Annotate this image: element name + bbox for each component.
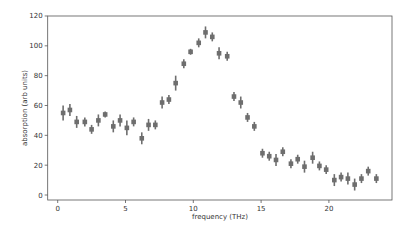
x-axis-ticks: 05101520 [55,200,333,213]
data-point [210,32,215,41]
y-tick-label: 0 [38,192,42,200]
marker [359,176,364,181]
data-point [139,132,144,144]
data-point [346,173,351,185]
marker [173,81,178,86]
data-point [103,111,108,117]
data-point [332,174,337,186]
marker [74,120,79,125]
data-point [89,125,94,134]
data-point [173,76,178,91]
y-axis-label: absorption (arb units) [21,70,29,146]
marker [317,164,322,169]
data-point [280,147,285,156]
marker [245,115,250,120]
marker [310,155,315,160]
marker [324,167,329,172]
y-axis-ticks: 020406080100120 [29,12,47,199]
marker [188,49,193,54]
x-tick-label: 5 [123,205,127,213]
data-point [68,104,73,116]
y-tick-label: 100 [29,42,42,50]
marker [182,61,187,66]
marker [153,123,158,128]
chart: 020406080100120 05101520 frequency (THz)… [0,0,411,233]
data-point [153,120,158,129]
data-point [260,149,265,158]
data-point [232,92,237,101]
marker [103,112,108,117]
data-point [61,105,66,120]
marker [274,158,279,163]
data-point [74,116,79,128]
marker [131,120,136,125]
data-point [317,161,322,170]
marker [352,182,357,187]
marker [139,136,144,141]
marker [146,123,151,128]
marker [232,94,237,99]
data-points [61,26,379,190]
plot-frame [48,16,392,200]
marker [302,164,307,169]
x-tick-label: 20 [324,205,333,213]
data-point [188,49,193,55]
marker [83,120,88,125]
data-point [83,117,88,126]
marker [238,100,243,105]
data-point [225,52,230,61]
marker [217,51,222,56]
marker [289,161,294,166]
marker [374,176,379,181]
x-axis-label: frequency (THz) [192,213,248,221]
data-point [252,122,257,131]
data-point [374,174,379,183]
marker [339,175,344,180]
marker [366,169,371,174]
data-point [160,97,165,109]
marker [160,100,165,105]
data-point [96,114,101,126]
marker [295,157,300,162]
data-point [217,47,222,59]
data-point [131,117,136,126]
data-point [310,152,315,164]
y-tick-label: 80 [34,72,43,80]
data-point [167,95,172,104]
marker [260,151,265,156]
marker [203,30,208,35]
marker [61,111,66,116]
marker [111,124,116,129]
data-point [302,161,307,173]
x-tick-label: 15 [257,205,266,213]
marker [332,178,337,183]
marker [96,118,101,123]
data-point [125,120,130,135]
data-point [118,114,123,126]
data-point [267,152,272,161]
data-point [289,159,294,168]
data-point [238,97,243,109]
data-point [196,38,201,47]
data-point [182,59,187,68]
x-tick-label: 10 [189,205,198,213]
marker [89,127,94,132]
marker [280,149,285,154]
marker [196,41,201,46]
data-point [203,26,208,38]
marker [252,124,257,129]
data-point [146,119,151,131]
data-point [245,113,250,122]
marker [210,35,215,40]
marker [267,154,272,159]
data-point [366,167,371,176]
marker [125,126,130,131]
data-point [274,154,279,166]
marker [225,54,230,59]
data-point [324,165,329,174]
marker [118,118,123,123]
data-point [352,179,357,191]
y-tick-label: 60 [34,102,43,110]
data-point [295,155,300,164]
y-tick-label: 20 [34,162,43,170]
